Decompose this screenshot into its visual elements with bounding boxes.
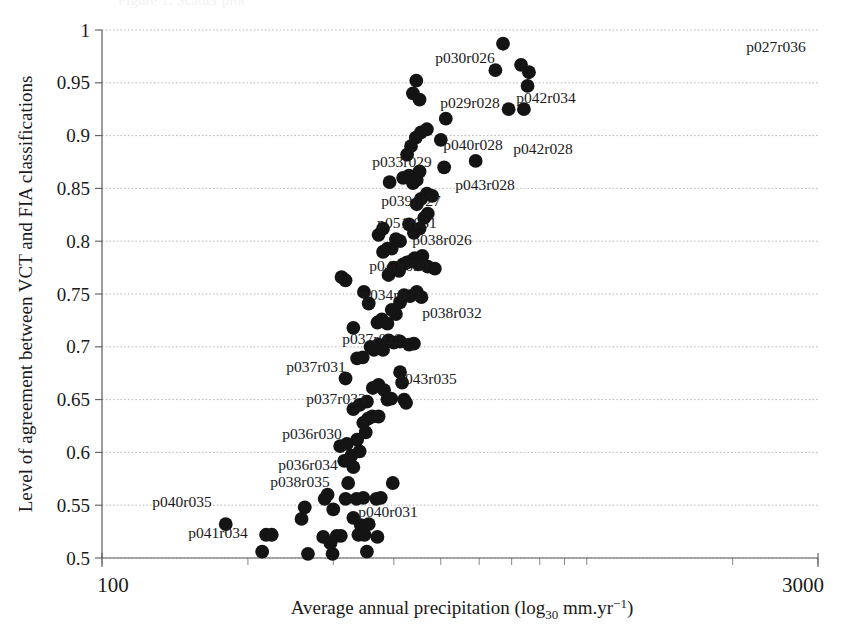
point-label: p036r030 [282, 425, 342, 442]
y-axis-title: Level of agreement between VCT and FIA c… [15, 76, 36, 513]
point-label: p041r034 [188, 524, 248, 541]
point-label: p043r028 [455, 176, 515, 193]
data-point [439, 112, 453, 126]
point-label: p027r036 [746, 38, 806, 55]
point-label: p040r030 [369, 257, 429, 274]
data-point [295, 512, 309, 526]
point-label: p037r028 [342, 330, 402, 347]
cropped-caption-remnant: Figure 1: Scatter plot [118, 0, 245, 9]
figure-container: Figure 1: Scatter plot 0.50.550.60.650.7… [0, 0, 847, 634]
data-point [522, 65, 536, 79]
x-axis-title: Average annual precipitation (log30 mm.y… [291, 596, 634, 622]
point-label: p038r035 [270, 473, 330, 490]
data-point [372, 410, 386, 424]
data-point [407, 337, 421, 351]
data-point [384, 392, 398, 406]
scatter-plot: 0.50.550.60.650.70.750.80.850.90.951 100… [0, 0, 847, 634]
x-tick-label: 100 [97, 573, 129, 597]
y-tick-label: 0.55 [57, 495, 90, 516]
y-tick-label: 0.75 [57, 284, 90, 305]
data-point [337, 454, 351, 468]
point-label: p036r034 [278, 456, 338, 473]
point-label: p039r027 [381, 192, 441, 209]
data-point [469, 154, 483, 168]
data-point [334, 529, 348, 543]
data-point [326, 503, 340, 517]
data-point [358, 528, 372, 542]
point-label: p040r035 [152, 493, 212, 510]
point-label: p043r035 [397, 370, 457, 387]
y-axis-title-text: Level of agreement between VCT and FIA c… [15, 76, 36, 513]
point-label: p038r026 [412, 231, 472, 248]
data-point [399, 396, 413, 410]
point-label: p029r028 [440, 94, 500, 111]
data-point [420, 122, 434, 136]
data-point [301, 547, 315, 561]
y-tick-label: 0.65 [57, 389, 90, 410]
point-label: p051r031 [377, 214, 436, 231]
point-label: p042r034 [516, 89, 576, 106]
data-point [298, 500, 312, 514]
y-tick-label: 0.7 [66, 336, 90, 357]
y-tick-label: 0.5 [66, 548, 90, 569]
data-point [265, 528, 279, 542]
y-tick-label: 0.8 [66, 231, 90, 252]
data-point [371, 530, 385, 544]
data-point [428, 262, 442, 276]
point-label: p033r029 [372, 153, 432, 170]
data-point [255, 545, 269, 559]
point-label: p034r031 [362, 286, 421, 303]
point-label: p040r031 [358, 503, 417, 520]
data-point [437, 160, 451, 174]
data-point [413, 93, 427, 107]
point-label: p040r028 [443, 136, 503, 153]
point-label: p042r028 [513, 140, 573, 157]
data-point [502, 102, 516, 116]
data-point [393, 234, 407, 248]
data-point [353, 444, 367, 458]
point-label: p038r032 [422, 304, 481, 321]
x-axis-ticks: 1003000 [97, 553, 824, 597]
y-tick-label: 1 [81, 20, 91, 41]
data-point [383, 175, 397, 189]
data-point [341, 476, 355, 490]
data-point [409, 74, 423, 88]
data-point [339, 273, 353, 287]
point-label: p037r031 [286, 358, 345, 375]
data-point [386, 476, 400, 490]
y-axis-ticks: 0.50.550.60.650.70.750.80.850.90.951 [57, 20, 102, 569]
x-tick-label: 3000 [782, 573, 824, 597]
point-annotations: p030r026p029r028p042r034p040r028p042r028… [152, 38, 806, 541]
data-point [496, 37, 510, 51]
x-axis-title-text: Average annual precipitation (log30 mm.y… [291, 596, 634, 622]
point-label: p037r033 [306, 390, 366, 407]
data-point [326, 547, 340, 561]
data-point [360, 545, 374, 559]
y-tick-label: 0.6 [66, 442, 90, 463]
y-tick-label: 0.9 [66, 125, 90, 146]
y-tick-label: 0.85 [57, 178, 90, 199]
y-tick-label: 0.95 [57, 72, 90, 93]
point-label: p030r026 [435, 49, 495, 66]
